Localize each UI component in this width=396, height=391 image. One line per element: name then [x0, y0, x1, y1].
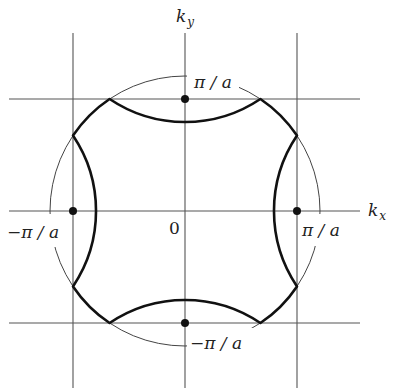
left-boundary-label: −π / a — [7, 222, 59, 242]
point-bottom — [181, 319, 189, 327]
point-top — [181, 95, 189, 103]
origin-label: 0 — [169, 218, 180, 238]
point-right — [293, 207, 301, 215]
point-left — [69, 207, 77, 215]
top-boundary-label: π / a — [193, 72, 232, 92]
grid-lines — [9, 33, 360, 388]
kx-axis-label: kx — [368, 200, 386, 223]
ky-axis-label: ky — [176, 6, 194, 29]
right-boundary-label: π / a — [301, 220, 340, 240]
brillouin-zone-diagram: ky kx 0 π / a π / a −π / a −π / a — [0, 0, 396, 391]
bottom-boundary-label: −π / a — [190, 333, 242, 353]
